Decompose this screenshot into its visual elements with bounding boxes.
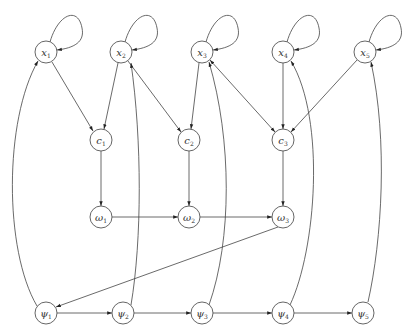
edge-x3-c2	[191, 63, 199, 129]
node-subscript: 1	[48, 313, 52, 320]
edge-x2-c2	[128, 61, 181, 132]
node-subscript: 3	[285, 217, 289, 224]
node-subscript: 3	[203, 52, 207, 59]
node-subscript: 1	[47, 52, 51, 59]
node-subscript: 4	[285, 313, 289, 320]
node-omega1: ω1	[90, 206, 112, 228]
node-subscript: 3	[284, 140, 288, 147]
node-symbol: ψ	[117, 308, 125, 319]
graph-diagram: x1 x2 x3 x4 x5 c1 c2 c3	[0, 0, 407, 330]
edge-p3-x3	[209, 62, 226, 305]
node-subscript: 2	[191, 217, 195, 224]
node-symbol: ψ	[196, 308, 204, 319]
node-subscript: 3	[204, 313, 208, 320]
node-symbol: ω	[95, 212, 103, 223]
node-subscript: 5	[365, 313, 369, 320]
edge-x2-c1	[104, 63, 118, 129]
node-x1: x1	[35, 41, 57, 63]
node-subscript: 2	[122, 52, 126, 59]
node-c2: c2	[178, 129, 200, 151]
nodes: x1 x2 x3 x4 x5 c1 c2 c3	[35, 41, 376, 324]
node-omega2: ω2	[178, 206, 200, 228]
edge-w3-p1	[56, 227, 278, 307]
node-x5: x5	[354, 41, 376, 63]
node-symbol: ψ	[40, 308, 48, 319]
node-psi1: ψ1	[35, 302, 57, 324]
node-psi4: ψ4	[272, 302, 294, 324]
node-x2: x2	[110, 41, 132, 63]
node-psi2: ψ2	[112, 302, 134, 324]
node-omega3: ω3	[272, 206, 294, 228]
node-psi5: ψ5	[352, 302, 374, 324]
node-symbol: ω	[183, 212, 191, 223]
node-subscript: 5	[366, 52, 370, 59]
node-subscript: 1	[102, 140, 106, 147]
node-subscript: 2	[125, 313, 129, 320]
node-subscript: 4	[284, 52, 288, 59]
node-x3: x3	[191, 41, 213, 63]
node-x4: x4	[272, 41, 294, 63]
node-subscript: 1	[103, 217, 107, 224]
node-symbol: ψ	[357, 308, 365, 319]
edge-p1-x1	[12, 61, 38, 306]
edge-p4-x4	[290, 61, 314, 305]
edge-x3-c3-bidirectional	[210, 60, 275, 132]
node-symbol: ω	[277, 212, 285, 223]
edge-x5-c3	[291, 60, 357, 132]
edge-x1-c1	[52, 62, 93, 131]
edge-p2-x2	[131, 63, 139, 305]
node-symbol: ψ	[277, 308, 285, 319]
node-psi3: ψ3	[191, 302, 213, 324]
node-subscript: 2	[190, 140, 194, 147]
node-c3: c3	[272, 129, 294, 151]
node-c1: c1	[90, 129, 112, 151]
edge-p5-x5	[368, 62, 381, 302]
